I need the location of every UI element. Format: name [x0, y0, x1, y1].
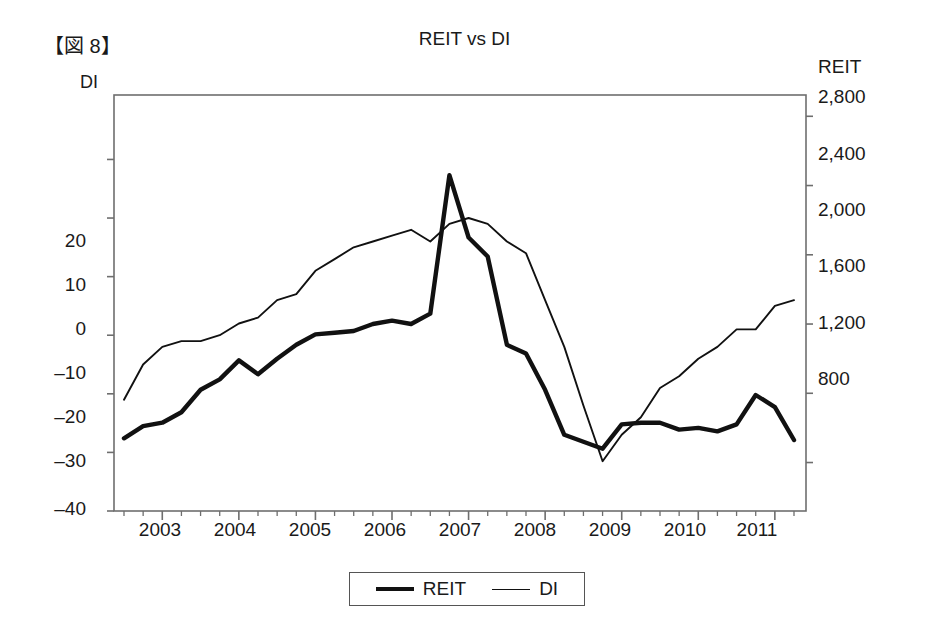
chart-legend: REIT DI	[349, 572, 585, 606]
legend-item-reit: REIT	[376, 578, 466, 600]
x-axis-major-ticks	[162, 511, 775, 520]
legend-swatch-reit-line	[376, 587, 414, 591]
legend-label-reit: REIT	[423, 578, 466, 600]
figure-8-chart: 【図 8】 REIT vs DI DI REIT 20 10 0 –10 –20…	[0, 0, 929, 635]
legend-item-di: DI	[492, 578, 558, 600]
reit-series-line	[124, 175, 794, 449]
legend-swatch-di-line	[492, 589, 530, 590]
legend-label-di: DI	[539, 578, 558, 600]
plot-area	[0, 0, 929, 635]
plot-frame	[114, 95, 806, 511]
right-axis-ticks	[806, 116, 813, 462]
di-series-line	[124, 218, 794, 461]
left-axis-ticks	[107, 159, 114, 511]
